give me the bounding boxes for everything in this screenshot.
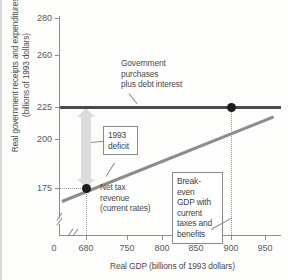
annotation-breakeven-line3: current	[177, 208, 218, 219]
x-tick-label-680: 680	[69, 243, 103, 253]
y-tick-200	[55, 139, 60, 140]
annotation-nettax-leader	[106, 163, 115, 177]
data-point-break-even	[227, 103, 236, 112]
annotation-break-even-box: Break-even GDP with current taxes and be…	[172, 172, 223, 244]
x-tick-label-850: 850	[179, 243, 213, 253]
y-tick-280	[55, 18, 60, 19]
annotation-deficit-line2: deficit	[108, 141, 133, 152]
annotation-government-purchases: Government purchases plus debt interest	[121, 58, 221, 90]
x-tick-label-950: 950	[248, 243, 282, 253]
annotation-net-tax: Net tax revenue (current rates)	[100, 182, 166, 214]
annotation-gov-line3: plus debt interest	[121, 79, 221, 90]
annotation-deficit-box: 1993 deficit	[103, 126, 138, 155]
annotation-nettax-line3: (current rates)	[100, 203, 166, 214]
data-point-1993-actual	[82, 184, 91, 193]
x-axis-title: Real GDP (billions of 1993 dollars)	[110, 261, 235, 271]
deficit-arrow-head-up	[77, 108, 95, 117]
annotation-nettax-line1: Net tax	[100, 182, 166, 193]
chart-figure: Real government receipts and expenditure…	[0, 0, 288, 280]
y-tick-label-200: 200	[26, 134, 52, 144]
y-tick-260	[55, 55, 60, 56]
annotation-gov-line2: purchases	[121, 69, 221, 80]
y-tick-label-260: 260	[26, 50, 52, 60]
y-axis-title-line2: (billions of 1993 dollars)	[22, 0, 33, 175]
x-tick-900	[231, 235, 232, 240]
y-tick-label-225: 225	[26, 102, 52, 112]
y-axis-title-line1: Real government receipts and expenditure…	[11, 0, 22, 175]
annotation-breakeven-line2: GDP with	[177, 197, 218, 208]
annotation-breakeven-line5: benefits	[177, 229, 218, 240]
deficit-arrow-shaft	[81, 116, 91, 180]
x-tick-680	[86, 235, 87, 240]
y-axis-title: Real government receipts and expenditure…	[11, 0, 41, 175]
series-net-tax-revenue	[61, 115, 274, 203]
guide-line-900	[231, 108, 232, 235]
series-government-purchases	[60, 106, 281, 109]
y-tick-label-175: 175	[26, 183, 52, 193]
guide-line-680	[86, 188, 87, 235]
x-tick-label-800: 800	[145, 243, 179, 253]
annotation-deficit-line1: 1993	[108, 130, 133, 141]
x-tick-950	[265, 235, 266, 240]
x-tick-800	[162, 235, 163, 240]
x-tick-750	[127, 235, 128, 240]
x-tick-label-900: 900	[214, 243, 248, 253]
x-tick-label-0: 0	[37, 243, 71, 253]
annotation-gov-leader	[129, 93, 138, 104]
x-axis-line	[59, 235, 281, 236]
annotation-breakeven-line1: Break-even	[177, 176, 218, 197]
y-tick-label-280: 280	[26, 13, 52, 23]
annotation-nettax-line2: revenue	[100, 193, 166, 204]
x-tick-label-750: 750	[110, 243, 144, 253]
annotation-gov-line1: Government	[121, 58, 221, 69]
